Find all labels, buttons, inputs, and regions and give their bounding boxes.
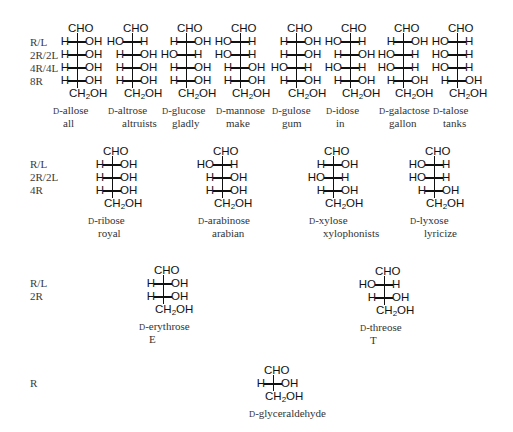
sugar-name: D-mannose xyxy=(216,104,265,118)
hydrogen-left: H xyxy=(280,48,288,61)
aldehyde-group: CHO xyxy=(231,22,257,35)
row-label: R/L xyxy=(30,158,47,171)
hydroxyl-right: OH xyxy=(304,74,321,87)
backbone-bond xyxy=(384,276,386,305)
hydroxyl-right: OH xyxy=(358,74,375,87)
substituent-bond xyxy=(287,80,305,82)
substituent-bond xyxy=(213,177,231,179)
hydrogen-right: H xyxy=(140,35,148,48)
hydroxymethyl-group: CH2OH xyxy=(376,304,414,320)
hydrogen-right: H xyxy=(392,278,400,291)
substituent-bond xyxy=(231,54,249,56)
hydroxyl-left: HO xyxy=(215,35,232,48)
hydrogen-left: H xyxy=(170,35,178,48)
hydroxyl-left: HO xyxy=(378,61,395,74)
hydrogen-right: H xyxy=(358,35,366,48)
aldehyde-group: CHO xyxy=(68,22,94,35)
hydrogen-left: H xyxy=(441,74,449,87)
substituent-bond xyxy=(68,67,86,69)
mnemonic-word: gum xyxy=(282,117,302,130)
aldehyde-group: CHO xyxy=(324,145,350,158)
hydroxymethyl-group: CH2OH xyxy=(214,197,252,213)
hydrogen-left: H xyxy=(116,74,124,87)
hydroxyl-right: OH xyxy=(171,290,188,303)
sugar-name: D-glyceraldehyde xyxy=(249,407,326,421)
hydroxymethyl-group: CH2OH xyxy=(124,87,162,103)
substituent-bond xyxy=(448,67,466,69)
hydroxyl-left: HO xyxy=(197,158,214,171)
aldehyde-group: CHO xyxy=(103,145,129,158)
hydroxymethyl-group: CH2OH xyxy=(449,87,487,103)
substituent-bond xyxy=(177,41,195,43)
substituent-bond xyxy=(324,190,342,192)
hydrogen-left: H xyxy=(334,74,342,87)
hydroxyl-right: OH xyxy=(442,184,459,197)
hydrogen-left: H xyxy=(387,74,395,87)
aldehyde-group: CHO xyxy=(341,22,367,35)
hydroxyl-left: HO xyxy=(378,48,395,61)
hydrogen-right: H xyxy=(341,171,349,184)
hydroxyl-left: HO xyxy=(359,278,376,291)
hydrogen-right: H xyxy=(248,48,256,61)
row-label: 2R/2L xyxy=(30,171,58,184)
mnemonic-word: E xyxy=(149,333,156,346)
sugar-name: D-arabinose xyxy=(198,214,250,228)
sugar-name: D-lyxose xyxy=(410,214,449,228)
substituent-bond xyxy=(213,190,231,192)
hydroxyl-left: HO xyxy=(432,48,449,61)
hydrogen-right: H xyxy=(230,158,238,171)
sugar-name: D-glucose xyxy=(162,104,205,118)
hydroxyl-right: OH xyxy=(120,158,137,171)
hydroxyl-right: OH xyxy=(304,48,321,61)
hydroxyl-right: OH xyxy=(85,74,102,87)
hydrogen-left: H xyxy=(61,48,69,61)
sugar-name: D-talose xyxy=(433,104,468,118)
hydroxymethyl-group: CH2OH xyxy=(104,197,142,213)
hydrogen-left: H xyxy=(206,171,214,184)
hydroxyl-right: OH xyxy=(120,184,137,197)
aldehyde-group: CHO xyxy=(448,22,474,35)
hydroxyl-right: OH xyxy=(304,35,321,48)
substituent-bond xyxy=(341,67,359,69)
aldehyde-group: CHO xyxy=(287,22,313,35)
hydroxymethyl-group: CH2OH xyxy=(288,87,326,103)
aldehyde-group: CHO xyxy=(264,364,290,377)
hydroxymethyl-group: CH2OH xyxy=(395,87,433,103)
hydroxyl-right: OH xyxy=(194,61,211,74)
hydroxyl-right: OH xyxy=(120,171,137,184)
hydrogen-left: H xyxy=(96,184,104,197)
substituent-bond xyxy=(103,190,121,192)
hydroxyl-right: OH xyxy=(194,35,211,48)
aldehyde-group: CHO xyxy=(394,22,420,35)
hydroxyl-left: HO xyxy=(215,48,232,61)
substituent-bond xyxy=(425,190,443,192)
substituent-bond xyxy=(123,54,141,56)
hydrogen-right: H xyxy=(304,61,312,74)
hydroxyl-right: OH xyxy=(465,74,482,87)
substituent-bond xyxy=(375,284,393,286)
mnemonic-word: arabian xyxy=(212,227,244,240)
substituent-bond xyxy=(324,177,342,179)
backbone-bond xyxy=(163,275,165,304)
hydrogen-left: H xyxy=(257,377,265,390)
hydroxyl-right: OH xyxy=(85,35,102,48)
hydrogen-left: H xyxy=(96,171,104,184)
substituent-bond xyxy=(68,80,86,82)
hydroxyl-left: HO xyxy=(409,158,426,171)
substituent-bond xyxy=(324,164,342,166)
hydrogen-left: H xyxy=(280,35,288,48)
aldehyde-group: CHO xyxy=(213,145,239,158)
hydroxyl-right: OH xyxy=(85,61,102,74)
sugar-name: D-erythrose xyxy=(139,320,190,334)
row-label: R/L xyxy=(30,36,47,49)
row-label: 4R/4L xyxy=(30,62,58,75)
mnemonic-word: tanks xyxy=(443,117,466,130)
sugar-name: D-galactose xyxy=(379,104,430,118)
hydroxymethyl-group: CH2OH xyxy=(178,87,216,103)
hydrogen-left: H xyxy=(224,61,232,74)
mnemonic-word: make xyxy=(226,117,250,130)
hydroxymethyl-group: CH2OH xyxy=(325,197,363,213)
hydroxymethyl-group: CH2OH xyxy=(232,87,270,103)
hydrogen-left: H xyxy=(317,158,325,171)
mnemonic-word: in xyxy=(336,117,345,130)
